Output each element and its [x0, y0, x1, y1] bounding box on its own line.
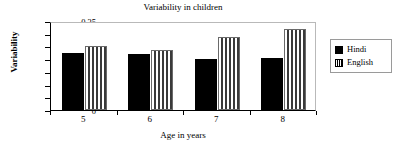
legend-swatch-english-icon: [335, 59, 343, 67]
bar-series-layer: [51, 23, 315, 110]
chart-legend: HindiEnglish: [330, 39, 392, 73]
x-axis-tick-mark: [117, 111, 118, 115]
x-axis-tick-label: 7: [196, 114, 236, 124]
bar-hindi-age-8: [261, 58, 283, 110]
legend-label: English: [347, 56, 373, 69]
x-axis-tick-mark: [50, 111, 51, 115]
bar-english-age-8: [284, 29, 306, 110]
chart-figure: Variability in children Variability 00.0…: [0, 0, 400, 149]
bar-group: [251, 23, 318, 110]
legend-item-hindi: Hindi: [335, 43, 387, 56]
x-axis-title: Age in years: [50, 130, 316, 140]
legend-item-english: English: [335, 56, 387, 69]
x-axis-tick-label: 5: [63, 114, 103, 124]
bar-english-age-6: [151, 50, 173, 110]
bar-hindi-age-6: [128, 54, 150, 110]
x-axis-tick-mark: [183, 111, 184, 115]
x-axis-tick-label: 6: [130, 114, 170, 124]
chart-title: Variability in children: [50, 2, 316, 13]
bar-group: [118, 23, 185, 110]
bar-english-age-5: [85, 46, 107, 110]
bar-group: [51, 23, 118, 110]
bar-group: [184, 23, 251, 110]
legend-label: Hindi: [347, 43, 366, 56]
x-axis-tick-mark: [316, 111, 317, 115]
legend-swatch-hindi-icon: [335, 46, 343, 54]
y-axis-title: Variability: [9, 12, 19, 92]
x-axis-tick-label: 8: [263, 114, 303, 124]
plot-area: [50, 22, 316, 111]
bar-hindi-age-5: [62, 53, 84, 110]
bar-hindi-age-7: [195, 59, 217, 110]
x-axis-tick-mark: [250, 111, 251, 115]
bar-english-age-7: [218, 37, 240, 110]
